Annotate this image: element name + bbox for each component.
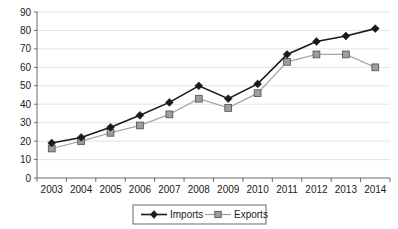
y-axis-tick-label: 20 — [20, 136, 32, 147]
gridlines — [37, 12, 390, 160]
legend-label-imports: Imports — [170, 209, 203, 220]
data-point-square — [313, 51, 320, 58]
data-point-diamond — [195, 82, 203, 90]
data-point-square — [342, 51, 349, 58]
x-axis-tick-label: 2009 — [217, 184, 240, 195]
data-point-diamond — [313, 38, 321, 46]
y-axis-tick-label: 60 — [20, 62, 32, 73]
square-icon — [215, 211, 221, 217]
data-point-square — [225, 105, 232, 112]
x-axis-tick-label: 2004 — [70, 184, 93, 195]
chart-legend: Imports Exports — [133, 205, 268, 224]
y-axis-tick-label: 10 — [20, 154, 32, 165]
data-point-square — [166, 111, 173, 118]
data-point-square — [254, 90, 261, 97]
y-axis-tick-label: 90 — [20, 7, 32, 18]
y-axis-tick-label: 80 — [20, 25, 32, 36]
series-line — [52, 54, 376, 148]
x-axis-tick-label: 2010 — [247, 184, 270, 195]
y-axis-tick-label: 30 — [20, 117, 32, 128]
y-axis-tick-labels: 0102030405060708090 — [20, 7, 32, 184]
data-point-diamond — [342, 32, 350, 40]
y-axis-tick-label: 50 — [20, 80, 32, 91]
x-axis-tick-labels: 2003200420052006200720082009201020112012… — [41, 184, 387, 195]
x-axis-tick-label: 2005 — [99, 184, 122, 195]
x-axis-tick-label: 2007 — [158, 184, 181, 195]
data-point-diamond — [165, 98, 173, 106]
data-point-square — [372, 64, 379, 71]
y-axis-tick-label: 40 — [20, 99, 32, 110]
x-axis-tick-marks — [37, 178, 390, 182]
data-point-square — [137, 122, 144, 129]
y-axis-tick-label: 0 — [25, 173, 31, 184]
data-point-square — [195, 95, 202, 102]
x-axis-tick-label: 2008 — [188, 184, 211, 195]
line-chart: 0102030405060708090 20032004200520062007… — [0, 0, 398, 229]
legend-label-exports: Exports — [234, 209, 268, 220]
data-point-diamond — [136, 111, 144, 119]
x-axis-tick-label: 2003 — [41, 184, 64, 195]
data-point-square — [284, 58, 291, 65]
x-axis-tick-label: 2014 — [364, 184, 387, 195]
x-axis-tick-label: 2013 — [335, 184, 358, 195]
chart-canvas: 0102030405060708090 20032004200520062007… — [0, 0, 398, 229]
data-point-diamond — [371, 25, 379, 33]
y-axis-tick-label: 70 — [20, 43, 32, 54]
x-axis-tick-label: 2012 — [305, 184, 328, 195]
data-point-diamond — [224, 95, 232, 103]
series-exports — [48, 51, 378, 152]
x-axis-tick-label: 2011 — [276, 184, 298, 195]
x-axis-tick-label: 2006 — [129, 184, 152, 195]
